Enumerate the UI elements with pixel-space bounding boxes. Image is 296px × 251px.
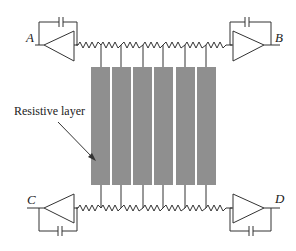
node-label-b: B bbox=[275, 30, 283, 45]
resistive-strips bbox=[91, 67, 216, 185]
strip-2 bbox=[112, 67, 131, 185]
resistive-layer-diagram: A B C D Resistive layer bbox=[0, 0, 296, 251]
node-label-a: A bbox=[25, 30, 34, 45]
node-label-d: D bbox=[274, 191, 285, 206]
node-label-c: C bbox=[27, 192, 36, 207]
strip-1 bbox=[91, 67, 110, 185]
resistive-layer-label: Resistive layer bbox=[14, 104, 85, 118]
top-resistor-chain bbox=[76, 42, 232, 48]
strip-3 bbox=[133, 67, 152, 185]
amplifier-d bbox=[230, 194, 280, 236]
strip-6 bbox=[197, 67, 216, 185]
annotation-arrow bbox=[58, 122, 96, 161]
strip-4 bbox=[154, 67, 173, 185]
bottom-resistor-chain bbox=[76, 205, 232, 211]
bottom-taps bbox=[101, 185, 206, 208]
amplifier-b bbox=[230, 17, 280, 61]
strip-5 bbox=[176, 67, 195, 185]
amplifier-a bbox=[35, 17, 78, 61]
